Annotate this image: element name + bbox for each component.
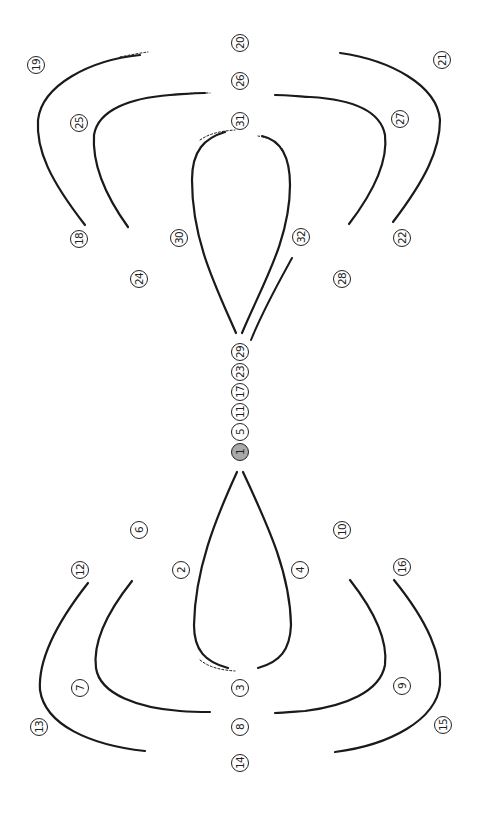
waypoint-label-11: 11 xyxy=(231,403,249,421)
waypoint-label-17: 17 xyxy=(231,383,249,401)
upper-loop-left xyxy=(192,132,236,333)
waypoint-label-2: 2 xyxy=(172,561,190,579)
upper-outer-arc-right xyxy=(340,53,440,222)
waypoint-label-14: 14 xyxy=(231,754,249,772)
waypoint-label-18: 18 xyxy=(70,230,88,248)
upper-inner-arc-left xyxy=(94,93,205,227)
waypoint-label-30: 30 xyxy=(170,229,188,247)
waypoint-label-24: 24 xyxy=(130,270,148,288)
start-waypoint-label: 1 xyxy=(231,443,249,461)
lower-outer-arc-right xyxy=(335,580,440,752)
waypoint-label-19: 19 xyxy=(27,56,45,74)
waypoint-label-32: 32 xyxy=(292,228,310,246)
lower-loop-left xyxy=(194,472,237,668)
lower-inner-arc-left xyxy=(96,581,210,712)
waypoint-label-29: 29 xyxy=(231,343,249,361)
waypoint-label-25: 25 xyxy=(70,114,88,132)
waypoint-label-9: 9 xyxy=(393,677,411,695)
lower-loop-right xyxy=(243,472,291,668)
waypoint-label-27: 27 xyxy=(391,110,409,128)
waypoint-label-20: 20 xyxy=(231,34,249,52)
waypoint-label-23: 23 xyxy=(231,363,249,381)
waypoint-label-13: 13 xyxy=(30,718,48,736)
upper-inner-arc-right xyxy=(275,95,385,224)
waypoint-label-5: 5 xyxy=(231,423,249,441)
lower-outer-arc-left xyxy=(40,583,145,751)
waypoint-label-22: 22 xyxy=(393,229,411,247)
waypoint-label-7: 7 xyxy=(71,679,89,697)
waypoint-label-21: 21 xyxy=(433,51,451,69)
lower-inner-arc-right xyxy=(275,580,385,713)
upper-outer-arc-left xyxy=(38,55,140,225)
waypoint-label-3: 3 xyxy=(231,679,249,697)
waypoint-label-4: 4 xyxy=(291,561,309,579)
waypoint-label-12: 12 xyxy=(71,561,89,579)
waypoint-label-26: 26 xyxy=(231,72,249,90)
waypoint-label-28: 28 xyxy=(333,270,351,288)
waypoint-label-8: 8 xyxy=(231,718,249,736)
waypoint-label-10: 10 xyxy=(333,521,351,539)
waypoint-label-16: 16 xyxy=(393,558,411,576)
waypoint-label-6: 6 xyxy=(130,521,148,539)
waypoint-label-31: 31 xyxy=(231,112,249,130)
waypoint-label-15: 15 xyxy=(434,716,452,734)
upper-loop-right xyxy=(242,136,290,333)
